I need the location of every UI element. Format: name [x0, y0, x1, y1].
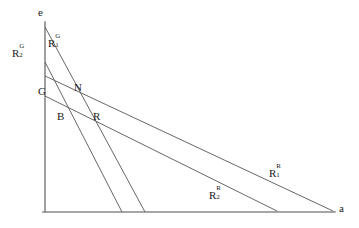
- curve-label-R1G-sup: G: [55, 33, 60, 40]
- plot-svg: [0, 0, 359, 228]
- curve-label-R1R-sub: 1: [276, 172, 280, 179]
- curve-label-R1R: RR1: [269, 166, 281, 179]
- curve-label-R2G-sup: G: [19, 43, 24, 50]
- curve-label-R2G-indices: G2: [19, 46, 24, 57]
- curve-label-R2G-base: R: [12, 47, 19, 59]
- point-label-G: G: [38, 86, 46, 97]
- diagram-canvas: e a RG1 RG2 RR1 RR2 G N B R: [0, 0, 359, 228]
- line-R2G: [45, 62, 122, 212]
- curve-label-R2R-base: R: [209, 189, 216, 201]
- curve-label-R2R-sup: R: [216, 185, 221, 192]
- curve-label-R2R: RR2: [209, 188, 221, 201]
- line-R1R: [45, 76, 333, 211]
- point-label-B: B: [57, 111, 64, 122]
- curve-label-R1G-indices: G1: [55, 36, 60, 47]
- curve-label-R1G-sub: 1: [55, 42, 59, 49]
- curve-label-R2R-sub: 2: [216, 194, 220, 201]
- curve-label-R1R-sup: R: [276, 163, 281, 170]
- curve-label-R1R-indices: R1: [276, 166, 281, 177]
- curve-label-R1G: RG1: [48, 36, 60, 49]
- curve-label-R1G-base: R: [48, 37, 55, 49]
- point-label-R: R: [93, 111, 100, 122]
- x-axis-label: a: [339, 203, 344, 214]
- y-axis-label: e: [38, 7, 43, 18]
- curve-label-R1R-base: R: [269, 167, 276, 179]
- point-label-N: N: [74, 82, 82, 93]
- curve-label-R2G-sub: 2: [19, 52, 23, 59]
- curve-label-R2R-indices: R2: [216, 188, 221, 199]
- line-R2R: [45, 96, 277, 211]
- curve-label-R2G: RG2: [12, 46, 24, 59]
